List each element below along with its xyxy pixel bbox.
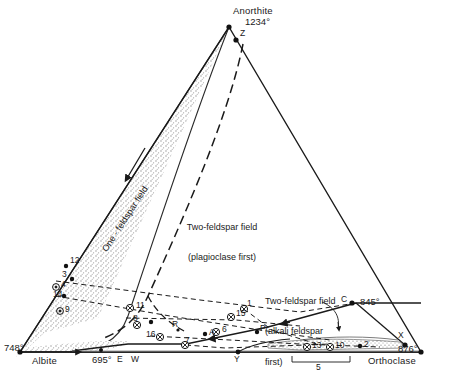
sample-label-1: 1 [247, 299, 252, 309]
field-label-two-feldspar-plagioclase: Two-feldspar field (plagioclase first) [167, 202, 277, 283]
field-label-line2: (plagioclase first) [167, 252, 277, 262]
field-label-two-feldspar-alkali: Two-feldspar field (alkali feldspar firs… [265, 276, 357, 379]
sample-label-6: 6 [222, 325, 227, 335]
ternary-phase-diagram: Anorthite 1234° Albite 748° Orthoclase 8… [0, 0, 450, 379]
point-label-Y: Y [234, 355, 240, 365]
point-label-R: R [172, 320, 178, 330]
corner-temp-albite: 748° [4, 343, 24, 354]
sample-label-8: 8 [133, 314, 138, 324]
sample-label-10: 10 [335, 341, 344, 351]
point-label-P: P [260, 324, 266, 334]
sample-label-11: 11 [136, 301, 145, 311]
sample-label-14: 14 [53, 290, 62, 300]
point-temp-C: 845° [360, 297, 380, 308]
point-label-W: W [131, 355, 139, 365]
point-label-C: C [341, 295, 347, 305]
sample-label-2: 2 [364, 340, 369, 350]
sample-label-7: 7 [185, 336, 190, 346]
sample-label-16: 16 [146, 330, 155, 340]
corner-label-albite: Albite [32, 356, 57, 367]
corner-temp-anorthite: 1234° [245, 17, 270, 28]
field-label-alkali-line3: first) [265, 357, 357, 367]
diagram-graphics [0, 0, 450, 379]
field-label-alkali-line2: (alkali feldspar [265, 326, 357, 336]
sample-label-9: 9 [65, 305, 70, 315]
point-label-E: E [117, 355, 123, 365]
sample-label-15: 15 [236, 309, 245, 319]
sample-label-13: 13 [312, 341, 321, 351]
corner-temp-orthoclase: 876° [398, 344, 418, 355]
sample-label-5: 5 [316, 363, 321, 373]
field-label-line1: Two-feldspar field [167, 222, 277, 232]
point-label-Z: Z [240, 29, 245, 39]
corner-label-orthoclase: Orthoclase [368, 356, 416, 367]
point-label-A: A [209, 328, 215, 338]
point-label-X: X [398, 331, 404, 341]
point-temp-E: 695° [92, 355, 112, 366]
sample-label-12: 12 [70, 256, 79, 266]
